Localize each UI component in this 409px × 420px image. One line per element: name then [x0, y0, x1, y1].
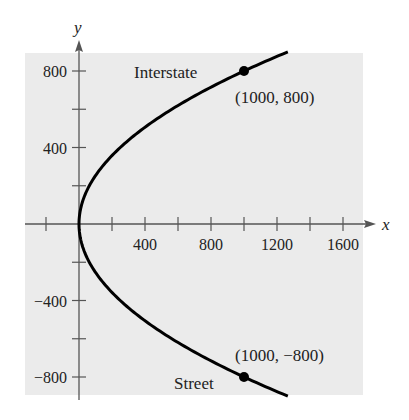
annotation-street: Street — [174, 374, 214, 393]
x-tick-label: 1600 — [327, 236, 359, 253]
y-tick-label: −800 — [34, 369, 67, 386]
x-tick-label: 800 — [199, 236, 223, 253]
y-tick-label: −400 — [34, 293, 67, 310]
y-tick-label: 400 — [43, 140, 67, 157]
data-point — [239, 66, 249, 76]
x-tick-label: 1200 — [261, 236, 293, 253]
x-tick-label: 400 — [133, 236, 157, 253]
data-point — [239, 372, 249, 382]
annotation-point-upper: (1000, 800) — [235, 88, 314, 107]
annotation-interstate: Interstate — [134, 63, 197, 82]
x-axis-label: x — [381, 215, 390, 234]
chart: xy 40080012001600800400−400−800 Intersta… — [0, 0, 409, 420]
y-tick-label: 800 — [43, 63, 67, 80]
annotation-point-lower: (1000, −800) — [235, 346, 324, 365]
y-axis-label: y — [72, 18, 82, 37]
